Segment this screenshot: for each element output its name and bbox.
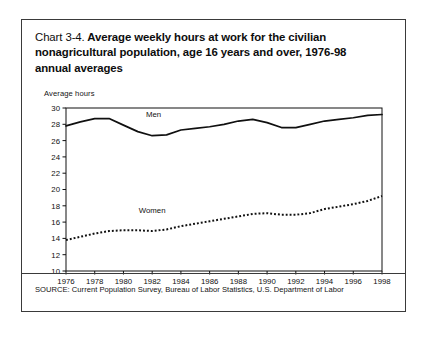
y-axis-tick-label: 16 [51, 218, 60, 227]
y-axis-tick-label: 22 [51, 169, 60, 178]
line-chart-svg: 1012141618202224262830197619781980198219… [22, 20, 407, 313]
y-axis-tick-label: 10 [51, 267, 60, 276]
plot-area: 1012141618202224262830197619781980198219… [22, 20, 407, 313]
y-axis-tick-label: 30 [51, 104, 60, 113]
y-axis-tick-label: 18 [51, 202, 60, 211]
y-axis-tick-label: 28 [51, 120, 60, 129]
y-axis-tick-label: 20 [51, 185, 60, 194]
chart-plot-group: 1012141618202224262830197619781980198219… [51, 104, 390, 286]
source-divider [22, 273, 405, 274]
y-axis-tick-label: 12 [51, 251, 60, 260]
series-label-men: Men [146, 110, 161, 119]
series-line-women [66, 196, 382, 240]
chart-figure-card: Chart 3-4. Average weekly hours at work … [21, 19, 406, 312]
y-axis-tick-label: 14 [51, 234, 60, 243]
series-line-men [66, 115, 382, 136]
source-note: SOURCE: Current Population Survey, Burea… [35, 285, 393, 295]
y-axis-tick-label: 24 [51, 153, 60, 162]
y-axis-tick-label: 26 [51, 137, 60, 146]
series-label-women: Women [139, 206, 166, 215]
